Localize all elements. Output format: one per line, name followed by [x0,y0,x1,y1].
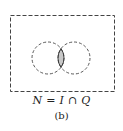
subfigure-label: (b) [0,110,123,121]
formula-label: N = I ∩ Q [0,94,123,107]
